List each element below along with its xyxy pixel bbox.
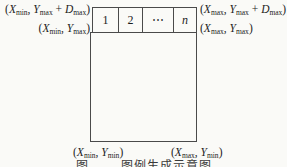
legend-cell: 2 — [118, 8, 142, 32]
coord-label-top-left-outer: (Xmin, Ymax + Dmax) — [5, 2, 90, 20]
figure-caption-word: 图 — [76, 159, 89, 167]
figure-page: (Xmin, Ymax + Dmax) (Xmax, Ymax + Dmax) … — [0, 0, 287, 167]
legend-cell: 1 — [93, 8, 118, 32]
coord-label-top-right-outer: (Xmax, Ymax + Dmax) — [200, 2, 286, 20]
legend-cell: ⋯ — [142, 8, 173, 32]
legend-cell-strip: 12⋯n — [92, 7, 197, 32]
legend-cell: n — [173, 8, 196, 32]
bounding-rectangle — [90, 32, 197, 142]
figure-caption-title: 图例生成示意图 — [121, 159, 212, 167]
coord-label-top-right-inner: (Xmax, Ymax) — [200, 21, 253, 39]
coord-label-top-left-inner: (Xmin, Ymax) — [39, 21, 90, 39]
figure-caption: 图图例生成示意图 — [0, 160, 287, 167]
